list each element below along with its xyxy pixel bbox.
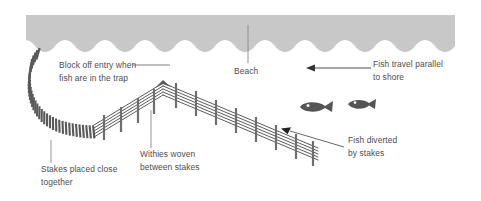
fish-travel-label-line2: to shore [373, 72, 404, 82]
diagram-canvas: Block off entry when fish are in the tra… [0, 0, 481, 201]
withies-woven-label-line2: between stakes [140, 162, 200, 172]
stakes-placed-close-label-line1: Stakes placed close [41, 164, 118, 174]
stakes-placed-close-label-line2: together [41, 177, 73, 187]
fish-travel-label-line1: Fish travel parallel [373, 59, 443, 69]
beach-band [26, 15, 455, 57]
fish-diverted-label-line2: by stakes [348, 148, 384, 158]
fish-1 [300, 101, 333, 112]
fish-trap-diagram: Block off entry when fish are in the tra… [0, 0, 481, 201]
block-off-entry-label-line1: Block off entry when [59, 60, 137, 70]
withy-fence [94, 80, 318, 166]
withies-woven-label-line1: Withies woven [140, 149, 196, 159]
fish-travel-arrow [306, 65, 371, 72]
fish-diverted-label-line1: Fish diverted [348, 135, 397, 145]
beach-label: Beach [234, 66, 258, 76]
fish-2 [348, 99, 376, 109]
fence-apex [155, 80, 171, 88]
block-off-entry-label-line2: fish are in the trap [59, 73, 128, 83]
